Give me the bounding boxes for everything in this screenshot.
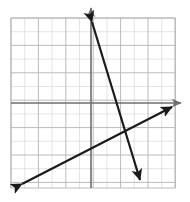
coordinate-plane-figure [0, 0, 190, 202]
coordinate-plane-svg [0, 0, 190, 202]
